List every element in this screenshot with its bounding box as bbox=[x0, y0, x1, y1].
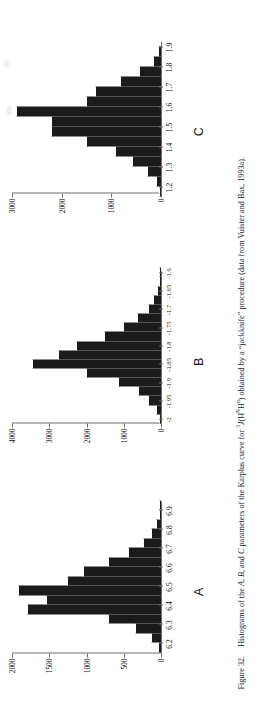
x-tick-label-c: 1.3 bbox=[165, 162, 174, 171]
bars-c bbox=[12, 41, 161, 192]
y-tick-label-c: 0 bbox=[157, 198, 166, 202]
x-tick-label-c: 1.9 bbox=[165, 42, 174, 51]
histogram-bar bbox=[120, 76, 161, 86]
histogram-bar bbox=[83, 567, 161, 577]
histogram-bar bbox=[104, 331, 161, 340]
histogram-bar bbox=[139, 66, 161, 76]
x-tick-label-b: -1.75 bbox=[165, 321, 172, 335]
histogram-bar bbox=[135, 624, 161, 634]
histogram-bar bbox=[156, 176, 161, 186]
x-tick-b bbox=[159, 327, 163, 328]
plot-area-c: 01000200030001.21.31.41.51.61.71.81.9 bbox=[12, 41, 162, 193]
histogram-bar bbox=[67, 576, 161, 586]
panel-label-b: B bbox=[192, 263, 206, 459]
y-tick-b bbox=[12, 423, 13, 427]
caption-text-2: , bbox=[237, 577, 246, 581]
y-tick-label-b: 4000 bbox=[8, 428, 17, 443]
y-tick-b bbox=[161, 423, 162, 427]
x-tick-a bbox=[159, 529, 163, 530]
histogram-panel-b: 01000200030004000-2-1.95-1.9-1.85-1.8-1.… bbox=[8, 263, 204, 459]
y-tick-c bbox=[161, 193, 162, 197]
y-tick-label-b: 1000 bbox=[119, 428, 128, 443]
x-tick-c bbox=[159, 66, 163, 67]
bars-b bbox=[12, 271, 161, 422]
x-tick-c bbox=[159, 126, 163, 127]
x-tick-label-b: -1.9 bbox=[165, 377, 172, 387]
caption-param-c: C bbox=[237, 548, 246, 553]
caption-text-1: Histograms of the bbox=[237, 586, 246, 647]
histogram-bar bbox=[46, 595, 161, 605]
histogram-bar bbox=[115, 146, 161, 156]
x-tick-b bbox=[159, 363, 163, 364]
x-tick-b bbox=[159, 345, 163, 346]
x-tick-c bbox=[159, 146, 163, 147]
panel-label-c: C bbox=[192, 33, 206, 229]
y-tick-a bbox=[161, 653, 162, 657]
x-tick-label-a: 6.9 bbox=[165, 506, 174, 515]
x-tick-c bbox=[159, 186, 163, 187]
y-tick-label-a: 1000 bbox=[82, 658, 91, 673]
histogram-panel-c: 01000200030001.21.31.41.51.61.71.81.9 C bbox=[8, 33, 204, 229]
x-tick-label-c: 1.8 bbox=[165, 62, 174, 71]
y-tick-b bbox=[124, 423, 125, 427]
histogram-bar bbox=[118, 377, 161, 386]
y-tick-label-b: 2000 bbox=[82, 428, 91, 443]
caption-text-4: parameters of the Karplus curve for bbox=[237, 427, 246, 548]
x-tick-label-b: -1.85 bbox=[165, 358, 172, 372]
histogram-bar bbox=[108, 557, 161, 567]
histogram-bar bbox=[137, 313, 161, 322]
x-tick-a bbox=[159, 605, 163, 606]
caption-text-7: ) obtained by a “jackknife” procedure (d… bbox=[237, 157, 246, 400]
caption-text-5: (H bbox=[237, 412, 246, 421]
x-tick-label-b: -1.8 bbox=[165, 341, 172, 351]
x-tick-label-c: 1.7 bbox=[165, 82, 174, 91]
histogram-bar bbox=[123, 322, 161, 331]
plot-area-b: 01000200030004000-2-1.95-1.9-1.85-1.8-1.… bbox=[12, 271, 162, 423]
x-tick-c bbox=[159, 46, 163, 47]
y-tick-b bbox=[49, 423, 50, 427]
panel-label-a: A bbox=[192, 493, 206, 689]
histogram-bar bbox=[156, 519, 161, 529]
histogram-bar bbox=[16, 106, 161, 116]
histogram-bar bbox=[156, 405, 161, 414]
x-tick-b bbox=[159, 272, 163, 273]
x-tick-label-a: 6.5 bbox=[165, 582, 174, 591]
y-tick-label-a: 1500 bbox=[45, 658, 54, 673]
histogram-bar bbox=[51, 126, 161, 136]
histogram-bar bbox=[27, 605, 161, 615]
histogram-bar bbox=[158, 46, 161, 56]
plot-area-a: 05001000150020006.26.36.46.56.66.76.86.9 bbox=[12, 501, 162, 653]
histogram-bar bbox=[108, 614, 161, 624]
x-tick-b bbox=[159, 382, 163, 383]
figure-area: 05001000150020006.26.36.46.56.66.76.86.9… bbox=[0, 0, 272, 707]
histogram-bar bbox=[18, 586, 161, 596]
y-tick-c bbox=[111, 193, 112, 197]
x-tick-a bbox=[159, 624, 163, 625]
histogram-bar bbox=[159, 276, 161, 285]
histogram-bar bbox=[86, 136, 162, 146]
y-tick-a bbox=[124, 653, 125, 657]
x-tick-label-a: 6.8 bbox=[165, 525, 174, 534]
histogram-bar bbox=[138, 386, 161, 395]
x-tick-label-a: 6.4 bbox=[165, 601, 174, 610]
x-tick-a bbox=[159, 643, 163, 644]
x-tick-c bbox=[159, 106, 163, 107]
y-tick-label-b: 3000 bbox=[45, 428, 54, 443]
histogram-bar bbox=[153, 56, 161, 66]
caption-j-symbol: J bbox=[237, 421, 246, 425]
histogram-bar bbox=[86, 96, 162, 106]
histogram-bar bbox=[32, 359, 162, 368]
histogram-bar bbox=[76, 341, 161, 350]
histogram-bar bbox=[159, 500, 161, 510]
x-tick-c bbox=[159, 166, 163, 167]
x-tick-a bbox=[159, 567, 163, 568]
histogram-bar bbox=[95, 86, 161, 96]
histogram-bar bbox=[153, 295, 161, 304]
figure-number: Figure 32. bbox=[237, 655, 246, 689]
x-tick-label-c: 1.5 bbox=[165, 122, 174, 131]
y-tick-label-a: 500 bbox=[119, 658, 128, 669]
y-tick-label-c: 1000 bbox=[107, 198, 116, 213]
x-tick-c bbox=[159, 86, 163, 87]
y-tick-label-c: 3000 bbox=[8, 198, 17, 213]
x-tick-a bbox=[159, 548, 163, 549]
